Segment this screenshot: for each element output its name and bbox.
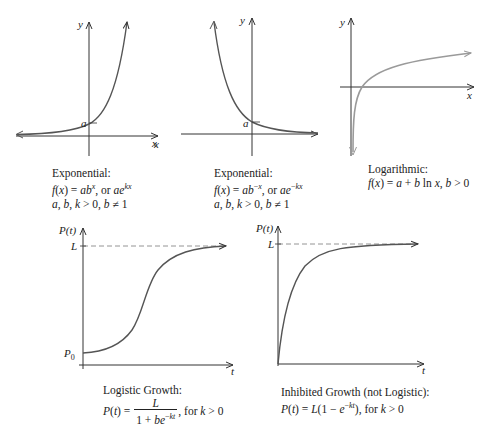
- a-label: a: [243, 117, 249, 129]
- x-label-left: x: [151, 137, 157, 149]
- L-label: L: [70, 240, 77, 252]
- graph-inhibited-growth: P(t) L t: [255, 222, 426, 376]
- graph-exponential-growth: a y x: [16, 18, 159, 156]
- caption-formula: f(x) = ab−x, or ae−kx: [214, 180, 303, 197]
- t-label: t: [231, 365, 235, 377]
- caption-formula: P(t) = L(1 − e−kt), for k > 0: [281, 399, 430, 416]
- Pt-label: P(t): [255, 222, 273, 235]
- caption-conditions: a, b, k > 0, b ≠ 1: [52, 197, 131, 211]
- caption-title: Logistic Growth:: [103, 383, 223, 397]
- graph-exponential-decay: a y x: [151, 14, 318, 156]
- caption-title: Inhibited Growth (not Logistic):: [281, 385, 430, 399]
- curve-arrow-head: [210, 21, 217, 29]
- y-label: y: [77, 18, 83, 30]
- caption-formula: f(x) = abx, or aekx: [52, 180, 131, 197]
- caption-inhibited-growth: Inhibited Growth (not Logistic): P(t) = …: [281, 385, 430, 416]
- y-label: y: [239, 14, 245, 26]
- t-label: t: [422, 364, 426, 376]
- diagram-canvas: a y x a y x y x P(t) L P0 t: [0, 0, 483, 426]
- logistic-curve: [83, 246, 226, 353]
- caption-formula: P(t) = L1 + be−kt, for k > 0: [103, 397, 223, 426]
- graph-logistic-growth: P(t) L P0 t: [58, 224, 235, 377]
- caption-logistic-growth: Logistic Growth: P(t) = L1 + be−kt, for …: [103, 383, 223, 426]
- graph-logarithmic: y x: [339, 16, 474, 156]
- P0-label: P0: [63, 347, 75, 362]
- caption-logarithmic: Logarithmic: f(x) = a + b ln x, b > 0: [368, 162, 469, 190]
- caption-title: Exponential:: [214, 166, 303, 180]
- inhibited-curve: [278, 244, 418, 364]
- caption-exponential-growth: Exponential: f(x) = abx, or aekx a, b, k…: [52, 166, 131, 211]
- caption-conditions: a, b, k > 0, b ≠ 1: [214, 197, 303, 211]
- x-label: x: [466, 89, 472, 101]
- decay-curve: [214, 22, 318, 133]
- y-label: y: [339, 16, 345, 28]
- caption-exponential-decay: Exponential: f(x) = ab−x, or ae−kx a, b,…: [214, 166, 303, 211]
- growth-curve: [17, 22, 127, 135]
- caption-title: Exponential:: [52, 166, 131, 180]
- caption-title: Logarithmic:: [368, 162, 469, 176]
- a-label: a: [81, 117, 87, 129]
- Pt-label: P(t): [58, 224, 76, 237]
- caption-formula: f(x) = a + b ln x, b > 0: [368, 176, 469, 190]
- L-label: L: [267, 238, 274, 250]
- log-curve: [353, 53, 471, 152]
